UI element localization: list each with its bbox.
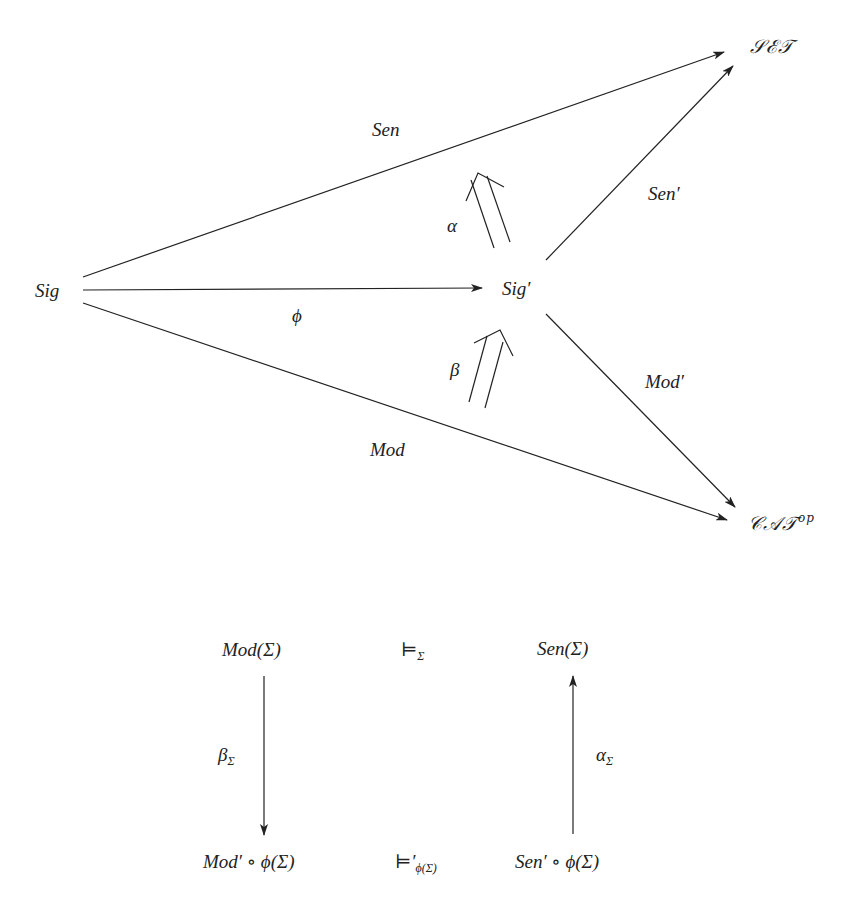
arrows-layer xyxy=(0,0,856,901)
arrow-phi xyxy=(83,288,482,290)
node-set: 𝒮ℰ𝒯 xyxy=(750,37,794,56)
alpha-subscript: Σ xyxy=(606,754,613,768)
label-alpha-sigma: αΣ xyxy=(596,745,613,767)
arrow-mod xyxy=(83,303,727,520)
label-mod: Mod xyxy=(370,440,405,459)
models-sigma: ⊨Σ xyxy=(401,640,424,662)
models-prime-symbol: ⊨′ xyxy=(395,851,416,872)
models-prime-phi: ⊨′ϕ(Σ) xyxy=(395,852,437,874)
models-subscript: Σ xyxy=(417,649,424,663)
mod-sigma: Mod(Σ) xyxy=(222,640,281,659)
beta-double-arrow xyxy=(469,330,513,408)
label-phi: ϕ xyxy=(292,306,302,325)
label-beta-sigma: βΣ xyxy=(218,745,235,767)
label-mod-prime: Mod′ xyxy=(645,372,684,391)
beta-subscript: Σ xyxy=(227,754,234,768)
node-cat: 𝒞𝒜𝒯 xyxy=(748,512,798,534)
node-sig-prime: Sig′ xyxy=(502,279,530,298)
node-cat-op: 𝒞𝒜𝒯op xyxy=(748,512,815,533)
sen-sigma: Sen(Σ) xyxy=(537,639,588,658)
arrow-sen xyxy=(83,52,724,277)
label-sen-prime: Sen′ xyxy=(648,184,680,203)
alpha-symbol: α xyxy=(596,744,606,765)
arrow-mod-prime xyxy=(546,314,735,507)
node-sig: Sig xyxy=(35,281,59,300)
mod-prime-phi-sigma: Mod′ ∘ ϕ(Σ) xyxy=(203,852,295,871)
models-symbol: ⊨ xyxy=(401,639,417,660)
arrow-sen-prime xyxy=(546,66,733,260)
node-cat-superscript: op xyxy=(798,511,815,525)
sen-prime-phi-sigma: Sen′ ∘ ϕ(Σ) xyxy=(515,852,599,871)
label-alpha: α xyxy=(447,216,457,235)
label-beta: β xyxy=(450,360,459,379)
alpha-double-arrow xyxy=(466,173,510,248)
models-prime-subscript: ϕ(Σ) xyxy=(416,861,437,875)
label-sen: Sen xyxy=(372,120,399,139)
